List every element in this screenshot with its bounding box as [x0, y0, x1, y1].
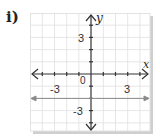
y-tick-label-neg3: -3: [73, 105, 83, 117]
y-tick-label-3: 3: [78, 32, 84, 44]
x-tick-label-neg3: -3: [50, 83, 60, 95]
x-axis-label: x: [143, 58, 150, 71]
x-tick-label-3: 3: [124, 83, 130, 95]
graph-background: [30, 13, 150, 131]
question-label: i): [6, 8, 19, 26]
coordinate-graph: y x 0 -3 3 3 -3: [30, 13, 154, 135]
y-axis-label: y: [95, 13, 103, 25]
origin-label: 0: [80, 75, 86, 86]
graph-svg: y x 0 -3 3 3 -3: [30, 13, 154, 135]
